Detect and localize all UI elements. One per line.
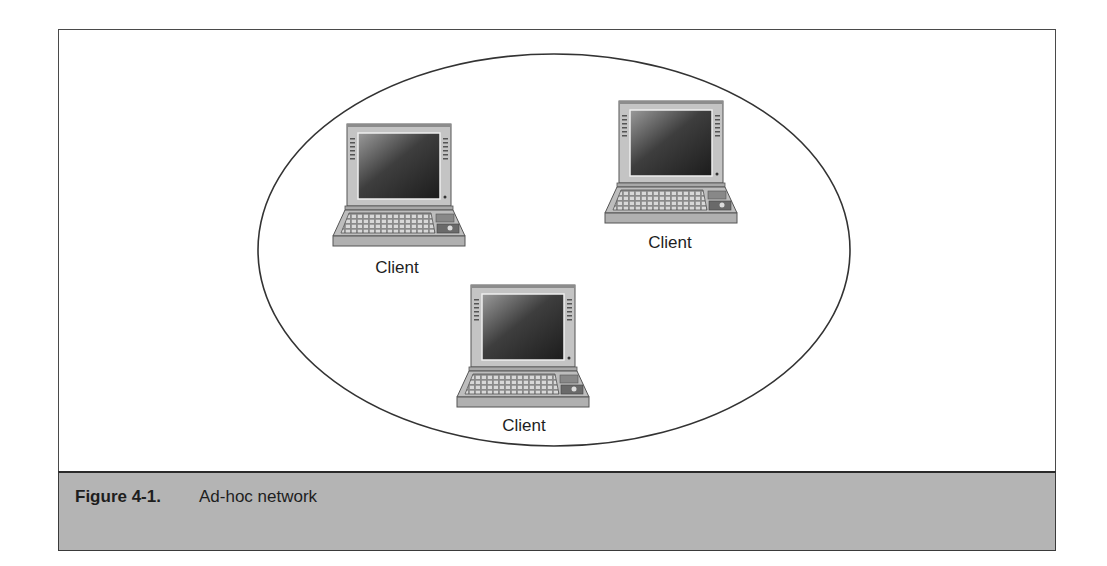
client-label-2: Client: [648, 233, 691, 253]
figure-title: Ad-hoc network: [199, 487, 317, 507]
client-label-1: Client: [375, 258, 418, 278]
figure-number: Figure 4-1.: [75, 487, 161, 507]
client-label-3: Client: [502, 416, 545, 436]
laptop-icon: [457, 285, 589, 407]
laptop-icon: [605, 101, 737, 223]
laptop-icon: [333, 124, 465, 246]
figure-caption: Figure 4-1. Ad-hoc network: [58, 471, 1056, 551]
